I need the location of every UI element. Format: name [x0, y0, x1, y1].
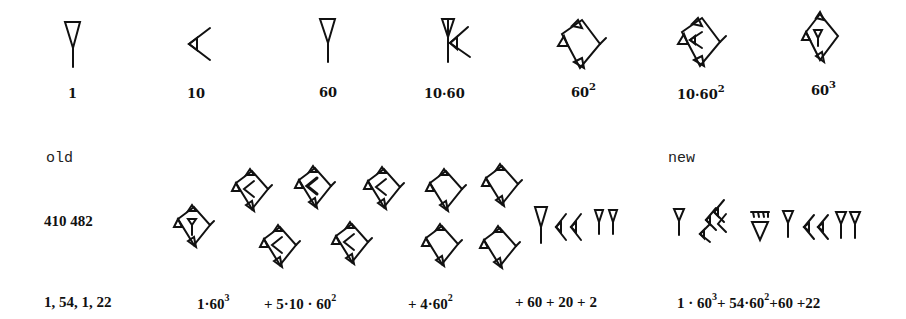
- sar-ten-icon: [230, 167, 274, 213]
- fifty-corners-icon: [696, 198, 730, 244]
- sar-sixty-icon: [800, 10, 844, 66]
- sar-ten-icon: [676, 14, 728, 70]
- sar-icon: [556, 16, 608, 72]
- sar-icon: [424, 167, 468, 213]
- ten-corner-icon: [802, 213, 816, 241]
- one-wedge-icon: [672, 207, 686, 237]
- one-wedge-icon: [593, 208, 605, 236]
- sar-icon: [478, 224, 522, 270]
- sar-ten-icon: [330, 220, 374, 266]
- one-wedge-icon: [848, 210, 862, 240]
- legend-label-60-cube: 603: [811, 81, 836, 98]
- one-wedge-icon: [63, 20, 83, 70]
- ten-corner-icon: [186, 26, 214, 62]
- sexagesimal-value: 1, 54, 1, 22: [44, 294, 112, 311]
- ten-corner-icon: [816, 213, 830, 241]
- old-term-2: + 5·10 · 602: [264, 294, 336, 313]
- sixty-wedge-icon: [533, 205, 549, 245]
- ten-corner-icon: [569, 212, 583, 242]
- new-label: new: [668, 150, 695, 167]
- new-expression: 1 · 603+ 54·602+60 +22: [677, 293, 820, 312]
- old-label: old: [46, 150, 73, 167]
- ten-sixty-icon: [440, 17, 474, 65]
- sar-ten-icon: [362, 165, 406, 211]
- one-wedge-icon: [607, 208, 619, 236]
- ten-corner-icon: [554, 212, 568, 242]
- sar-ten-icon: [258, 223, 302, 269]
- one-wedge-icon: [834, 210, 848, 240]
- sar-icon: [480, 162, 524, 208]
- sar-icon: [420, 222, 464, 268]
- legend-label-60: 60: [319, 85, 337, 100]
- legend-label-1: 1: [68, 86, 77, 101]
- sixty-wedge-icon: [318, 17, 338, 65]
- old-term-1: 1·603: [197, 294, 230, 313]
- legend-label-60-sq: 602: [571, 83, 596, 100]
- four-wedges-icon: [749, 210, 771, 242]
- legend-label-10-60: 10·60: [424, 86, 465, 101]
- old-term-3: + 4·602: [408, 294, 453, 313]
- legend-label-10-60-sq: 10·602: [677, 85, 725, 102]
- sar-ten-icon: [293, 164, 337, 210]
- one-wedge-icon: [781, 209, 795, 239]
- sar-sixty-icon: [172, 203, 216, 249]
- decimal-value: 410 482: [44, 213, 93, 230]
- legend-label-10: 10: [187, 86, 205, 101]
- old-term-4: + 60 + 20 + 2: [515, 294, 597, 311]
